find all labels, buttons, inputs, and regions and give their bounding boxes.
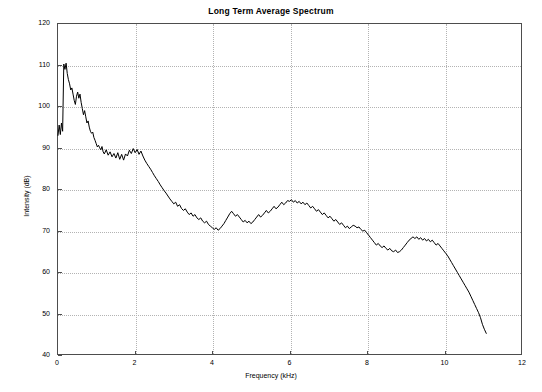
y-tick-label: 100: [24, 102, 50, 109]
x-tick-label: 4: [200, 359, 224, 366]
x-tick-label: 12: [510, 359, 534, 366]
y-tick-label: 110: [24, 61, 50, 68]
x-tick-label: 10: [433, 359, 457, 366]
x-tick-label: 8: [355, 359, 379, 366]
y-tick-label: 120: [24, 19, 50, 26]
y-tick-label: 60: [24, 268, 50, 275]
y-tick-label: 70: [24, 227, 50, 234]
x-tick-label: 0: [45, 359, 69, 366]
chart-title: Long Term Average Spectrum: [0, 6, 542, 16]
series-line-plot: [58, 24, 521, 354]
y-tick-label: 50: [24, 310, 50, 317]
x-tick-label: 2: [123, 359, 147, 366]
y-tick-label: 90: [24, 144, 50, 151]
y-axis-label: Intensity (dB): [23, 175, 30, 216]
x-axis-label: Frequency (kHz): [0, 372, 542, 379]
plot-area: [57, 23, 522, 355]
chart-figure: Long Term Average Spectrum 4050607080901…: [0, 0, 542, 392]
series-polyline: [58, 63, 486, 333]
y-tick-mark: [58, 355, 62, 356]
y-tick-label: 40: [24, 351, 50, 358]
x-tick-label: 6: [278, 359, 302, 366]
